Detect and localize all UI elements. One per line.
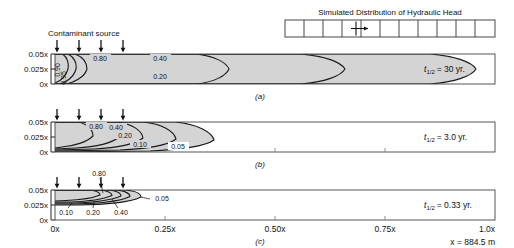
- xtick-1: 0.25x: [155, 224, 177, 234]
- panel-c-ytick-0: 0.05x: [28, 186, 48, 195]
- panel-c-halflife: t1/2= 0.33 yr.: [424, 200, 472, 211]
- panel-a-letter: (a): [255, 92, 265, 101]
- panel-c-label-080: 0.80: [92, 170, 106, 177]
- panel-b-label-040: 0.40: [109, 124, 123, 131]
- panel-a-source-arrows: [55, 40, 126, 53]
- panel-a: 0.05x 0.025x 0x 0.80 0.40 0.20 0.90 0.95…: [24, 40, 495, 101]
- xtick-0: 0x: [51, 224, 61, 234]
- panel-c-y-axis: 0.05x 0.025x 0x: [24, 186, 55, 225]
- panel-a-plume-fill: [55, 54, 476, 84]
- panel-b-label-080: 0.80: [89, 123, 103, 130]
- panel-c-ytick-1: 0.025x: [24, 201, 48, 210]
- panel-b-label-010: 0.10: [133, 141, 147, 148]
- panel-b-ytick-0: 0.05x: [28, 118, 48, 127]
- panel-a-label-020: 0.20: [153, 73, 167, 80]
- panel-b-y-axis: 0.05x 0.025x 0x: [24, 118, 55, 157]
- panel-c-letter: (c): [255, 237, 265, 246]
- panel-c-source-arrows: [55, 177, 126, 189]
- x-axis: 0x 0.25x 0.50x 0.75x 1.0x: [51, 224, 496, 234]
- figure-svg: Simulated Distribution of Hydraulic Head…: [0, 0, 514, 248]
- hydraulic-head-figure: Simulated Distribution of Hydraulic Head…: [0, 0, 514, 248]
- panel-a-ytick-0: 0.05x: [28, 50, 48, 59]
- panel-c-label-010: 0.10: [59, 209, 73, 216]
- panel-b-ytick-2: 0x: [40, 148, 48, 157]
- xtick-4: 1.0x: [479, 224, 496, 234]
- panel-c-label-040: 0.40: [114, 209, 128, 216]
- panel-c: 0.05x 0.025x 0x 0.80 0.05 0.10 0.20 0.40…: [24, 170, 496, 247]
- panel-c-label-020: 0.20: [86, 209, 100, 216]
- panel-a-label-040: 0.40: [153, 55, 167, 62]
- panel-c-ytick-2: 0x: [40, 216, 48, 225]
- panel-a-ytick-2: 0x: [40, 80, 48, 89]
- panel-a-label-080: 0.80: [93, 55, 107, 62]
- contaminant-source-label: Contaminant source: [48, 29, 120, 38]
- panel-b-ytick-1: 0.025x: [24, 133, 48, 142]
- panel-b-label-005: 0.05: [171, 143, 185, 150]
- hydraulic-head-grid: [285, 20, 495, 37]
- panel-b-halflife: t1/2= 3.0 yr.: [424, 132, 467, 143]
- panel-b-ticks: [165, 148, 385, 152]
- panel-b-letter: (b): [255, 160, 265, 169]
- legend-title: Simulated Distribution of Hydraulic Head: [318, 8, 462, 17]
- x-scale-note: x = 884.5 m: [450, 237, 495, 247]
- panel-b-source-arrows: [55, 109, 126, 121]
- panel-a-label-095: 0.95: [60, 71, 67, 85]
- panel-c-ticks: [165, 216, 385, 220]
- xtick-3: 0.75x: [375, 224, 397, 234]
- panel-b-label-020: 0.20: [118, 132, 132, 139]
- xtick-2: 0.50x: [265, 224, 287, 234]
- panel-c-label-005: 0.05: [155, 195, 169, 202]
- panel-a-y-axis: 0.05x 0.025x 0x: [24, 50, 55, 89]
- panel-a-ytick-1: 0.025x: [24, 65, 48, 74]
- panel-b: 0.05x 0.025x 0x 0.80 0.40 0.20 0.10 0.05…: [24, 109, 495, 169]
